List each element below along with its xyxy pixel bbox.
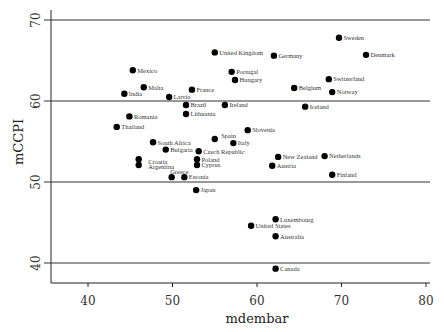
- point-marker: [150, 139, 156, 145]
- data-point-lithuania: Lithuania: [183, 110, 216, 117]
- point-marker: [212, 49, 218, 55]
- point-marker: [166, 94, 172, 100]
- point-label: Canada: [280, 265, 300, 272]
- data-point-ireland: Ireland: [222, 101, 249, 108]
- point-marker: [126, 113, 132, 119]
- point-marker: [228, 69, 234, 75]
- point-label: Portugal: [236, 68, 258, 75]
- point-marker: [222, 102, 228, 108]
- data-point-austria: Austria: [269, 162, 296, 169]
- y-tick-label: 60: [29, 93, 43, 108]
- point-label: Australia: [280, 233, 304, 240]
- point-marker: [183, 111, 189, 117]
- point-label: France: [196, 86, 214, 93]
- point-label: Estonia: [189, 173, 209, 180]
- point-label: Malta: [148, 84, 163, 91]
- point-marker: [212, 136, 218, 142]
- x-tick-label: 80: [418, 294, 433, 308]
- point-marker: [272, 265, 278, 271]
- data-points: SwedenDenmarkUnited KingdomGermanyPortug…: [114, 34, 396, 272]
- data-point-norway: Norway: [329, 88, 358, 95]
- point-marker: [275, 154, 281, 160]
- data-point-argentina: Argentina: [136, 162, 175, 170]
- y-tick-label: 40: [29, 255, 43, 270]
- point-label: Bulgaria: [170, 146, 192, 153]
- point-marker: [194, 162, 200, 168]
- point-label: Germany: [278, 52, 303, 59]
- data-point-romania: Romania: [126, 113, 157, 120]
- point-label: Slovenia: [252, 126, 275, 133]
- data-point-australia: Australia: [272, 233, 304, 240]
- point-label: Czech Republic: [203, 148, 244, 155]
- point-marker: [329, 89, 335, 95]
- point-label: Iceland: [310, 103, 330, 110]
- data-point-italy: Italy: [230, 139, 250, 146]
- data-point-canada: Canada: [272, 265, 299, 272]
- point-label: Thailand: [121, 123, 145, 130]
- point-label: Mexico: [137, 67, 157, 74]
- data-point-latvia: Latvia: [166, 93, 190, 100]
- point-marker: [183, 102, 189, 108]
- point-label: South Africa: [158, 139, 191, 146]
- data-point-united-kingdom: United Kingdom: [212, 49, 264, 56]
- data-point-finland: Finland: [329, 171, 357, 178]
- data-point-united-states: United States: [248, 222, 291, 229]
- data-point-malta: Malta: [141, 84, 164, 91]
- point-marker: [336, 35, 342, 41]
- point-marker: [181, 174, 187, 180]
- point-marker: [136, 162, 142, 168]
- data-point-sweden: Sweden: [336, 34, 365, 41]
- point-marker: [363, 52, 369, 58]
- data-point-switzerland: Switzerland: [326, 75, 365, 82]
- point-marker: [195, 148, 201, 154]
- data-point-mexico: Mexico: [130, 67, 158, 74]
- point-marker: [272, 233, 278, 239]
- data-point-denmark: Denmark: [363, 51, 396, 58]
- point-label: India: [129, 90, 142, 97]
- point-label: Belgium: [299, 84, 321, 91]
- data-point-germany: Germany: [271, 52, 304, 59]
- point-label: Sweden: [343, 34, 364, 41]
- point-marker: [130, 67, 136, 73]
- point-label: Finland: [337, 171, 358, 178]
- data-point-czech-republic: Czech Republic: [195, 148, 244, 155]
- x-tick-label: 40: [80, 294, 95, 308]
- data-point-south-africa: South Africa: [150, 139, 191, 146]
- point-label: Lithuania: [191, 110, 216, 117]
- point-marker: [136, 156, 142, 162]
- point-marker: [230, 140, 236, 146]
- data-point-new-zealand: New Zealand: [275, 153, 318, 160]
- point-marker: [329, 172, 335, 178]
- y-tick-label: 50: [29, 174, 43, 189]
- data-point-japan: Japan: [193, 186, 216, 193]
- y-axis-title: mCCPI: [11, 119, 26, 165]
- point-label: Cyprus: [202, 161, 221, 168]
- y-tick-label: 70: [29, 12, 43, 27]
- point-marker: [245, 127, 251, 133]
- point-marker: [271, 52, 277, 58]
- point-label: Switzerland: [333, 75, 365, 82]
- x-axis-title: mdembar: [226, 311, 290, 326]
- point-label: Romania: [134, 113, 158, 120]
- point-marker: [248, 223, 254, 229]
- point-label: Brazil: [191, 101, 207, 108]
- x-tick-label: 50: [165, 294, 180, 308]
- point-marker: [232, 77, 238, 83]
- data-point-cyprus: Cyprus: [194, 161, 221, 168]
- point-label: New Zealand: [283, 153, 319, 160]
- point-marker: [163, 146, 169, 152]
- data-point-india: India: [121, 90, 142, 97]
- point-label: Netherlands: [329, 152, 361, 159]
- point-marker: [193, 187, 199, 193]
- x-tick-label: 70: [334, 294, 349, 308]
- point-label: United States: [256, 222, 291, 229]
- data-point-bulgaria: Bulgaria: [163, 146, 193, 153]
- point-label: Denmark: [371, 51, 396, 58]
- point-label: Japan: [201, 186, 217, 193]
- point-label: Italy: [238, 139, 251, 146]
- data-point-netherlands: Netherlands: [321, 152, 361, 159]
- data-point-hungary: Hungary: [232, 76, 263, 83]
- data-point-portugal: Portugal: [228, 68, 258, 75]
- point-label: United Kingdom: [219, 49, 263, 56]
- data-point-estonia: Estonia: [181, 173, 208, 180]
